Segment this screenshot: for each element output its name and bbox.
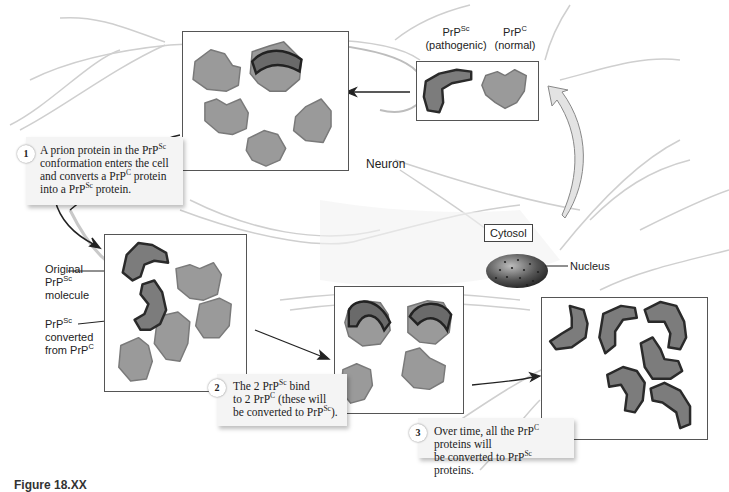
figure-label: Figure 18.XX bbox=[14, 478, 87, 492]
prp-c-molecule bbox=[196, 298, 231, 337]
prp-sc-binding-pair bbox=[408, 301, 451, 344]
nucleus-icon bbox=[486, 254, 548, 288]
step3-line: be converted to PrPSc proteins. bbox=[434, 451, 568, 477]
step3-number: 3 bbox=[409, 424, 427, 442]
converted-prpsc-label: PrPSc converted from PrPC bbox=[45, 318, 94, 357]
prp-c-molecule bbox=[193, 50, 240, 91]
curved-return-arrow bbox=[548, 86, 583, 218]
arrow-step1b-to-step2 bbox=[255, 330, 329, 359]
neuron-label: Neuron bbox=[366, 158, 405, 171]
step1-line: A prion protein in the PrPSc bbox=[40, 144, 175, 157]
step2-number: 2 bbox=[208, 379, 226, 397]
prp-sc-legend-label: PrPSc (pathogenic) bbox=[421, 26, 491, 52]
prp-c-legend-label: PrPC (normal) bbox=[490, 26, 540, 52]
step3-line: Over time, all the PrPC proteins will bbox=[434, 425, 568, 451]
prp-c-molecule bbox=[294, 99, 331, 142]
prp-c-molecule bbox=[246, 131, 285, 166]
prp-sc-molecule bbox=[599, 306, 636, 353]
step2-line: The 2 PrPSc bind bbox=[233, 380, 341, 393]
prp-sc-binding-pair bbox=[250, 42, 301, 91]
prp-sc-molecule bbox=[651, 383, 690, 428]
step1-line: conformation enters the cell bbox=[40, 157, 175, 170]
prp-c-molecule bbox=[482, 70, 526, 109]
prp-sc-molecule bbox=[607, 367, 644, 412]
step1-line: into a PrPSc protein. bbox=[40, 183, 175, 196]
legend-panel bbox=[416, 61, 539, 121]
prp-c-molecule bbox=[402, 348, 445, 389]
prp-sc-converted-molecule bbox=[135, 280, 167, 329]
step1-panel bbox=[182, 31, 349, 171]
step2-panel bbox=[334, 286, 464, 414]
step1-number: 1 bbox=[17, 145, 35, 163]
prp-sc-molecule bbox=[550, 306, 587, 349]
step2-callout: 2 The 2 PrPSc bind to 2 PrPC (these will… bbox=[217, 374, 347, 426]
original-prpsc-label: Original PrPSc molecule bbox=[45, 263, 89, 302]
prp-sc-molecule bbox=[424, 70, 471, 113]
prp-c-molecule bbox=[176, 263, 221, 300]
step1b-panel bbox=[104, 234, 247, 392]
arrow-legend-to-step1 bbox=[346, 88, 410, 96]
cytosol-label: Cytosol bbox=[484, 224, 533, 242]
prp-sc-original-molecule bbox=[123, 243, 168, 280]
nucleus-label: Nucleus bbox=[570, 260, 610, 273]
step2-line: be converted to PrPSc). bbox=[233, 406, 341, 419]
prp-c-molecule bbox=[119, 338, 153, 381]
step3-callout: 3 Over time, all the PrPC proteins will … bbox=[418, 418, 574, 458]
step1-callout: 1 A prion protein in the PrPSc conformat… bbox=[26, 137, 183, 205]
arrow-step2-to-step3 bbox=[472, 373, 540, 385]
step1-line: and converts a PrPC protein bbox=[40, 170, 175, 183]
prp-c-molecule bbox=[205, 99, 248, 134]
prp-sc-binding-pair bbox=[345, 301, 390, 346]
